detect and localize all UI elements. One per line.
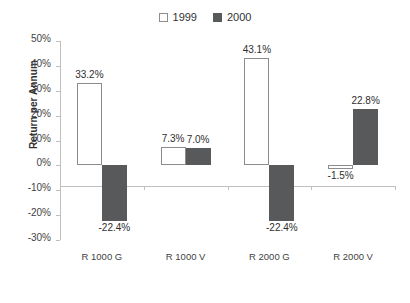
category-label-R-1000-G: R 1000 G xyxy=(62,252,142,262)
y-tick-label: 0% xyxy=(11,158,51,168)
value-label: -22.4% xyxy=(92,223,136,233)
value-label: 7.0% xyxy=(176,135,220,145)
y-tick-label: 50% xyxy=(11,34,51,44)
y-tick-label: 30% xyxy=(11,84,51,94)
x-tick xyxy=(228,186,229,190)
y-axis-line xyxy=(60,41,61,240)
bar-1999-R-1000-V xyxy=(161,147,186,165)
y-tick: -30% xyxy=(56,240,60,241)
y-tick: -10% xyxy=(56,190,60,191)
y-tick: -20% xyxy=(56,215,60,216)
y-tick-label: -10% xyxy=(11,183,51,193)
value-label: 22.8% xyxy=(344,96,388,106)
legend-label-1999: 1999 xyxy=(173,12,197,23)
bar-2000-R-2000-V xyxy=(353,109,378,166)
bar-2000-R-1000-V xyxy=(186,148,211,165)
category-label-R-2000-G: R 2000 G xyxy=(229,252,309,262)
bar-1999-R-2000-G xyxy=(244,58,269,165)
y-tick-label: -20% xyxy=(11,208,51,218)
value-label: 33.2% xyxy=(67,70,111,80)
y-tick-label: -30% xyxy=(11,233,51,243)
legend-swatch-icon-2000 xyxy=(213,13,222,22)
legend-swatch-icon-1999 xyxy=(159,13,168,22)
legend-entry-2000: 2000 xyxy=(213,12,251,23)
y-tick: 50% xyxy=(56,41,60,42)
legend-entry-1999: 1999 xyxy=(159,12,197,23)
category-label-R-1000-V: R 1000 V xyxy=(146,252,226,262)
y-tick: 40% xyxy=(56,66,60,67)
y-tick-label: 40% xyxy=(11,59,51,69)
y-tick-label: 10% xyxy=(11,134,51,144)
bar-1999-R-1000-G xyxy=(77,83,102,166)
x-tick xyxy=(60,186,61,190)
bar-2000-R-2000-G xyxy=(269,165,294,221)
y-tick: 0% xyxy=(56,165,60,166)
bar-chart: 1999 2000 Return per Annum 50%40%30%20%1… xyxy=(0,0,410,303)
y-tick-label: 20% xyxy=(11,109,51,119)
category-label-R-2000-V: R 2000 V xyxy=(313,252,393,262)
bar-1999-R-2000-V xyxy=(328,165,353,169)
value-label: -1.5% xyxy=(319,171,363,181)
x-tick xyxy=(311,186,312,190)
bar-2000-R-1000-G xyxy=(102,165,127,221)
x-tick xyxy=(144,186,145,190)
legend-label-2000: 2000 xyxy=(227,12,251,23)
y-tick: 20% xyxy=(56,116,60,117)
y-tick: 30% xyxy=(56,91,60,92)
y-tick: 10% xyxy=(56,141,60,142)
chart-legend: 1999 2000 xyxy=(0,7,410,27)
x-tick xyxy=(395,186,396,190)
value-label: 43.1% xyxy=(235,45,279,55)
value-label: -22.4% xyxy=(260,223,304,233)
